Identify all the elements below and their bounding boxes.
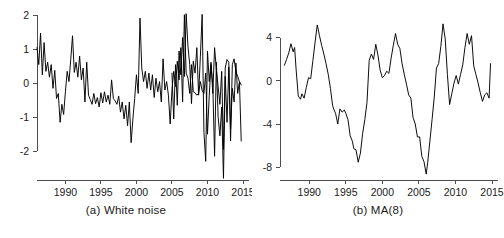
y-tick-label: 0 — [266, 75, 272, 87]
panel-ma8: -8-404199019952000200520102015 (b) MA(8) — [252, 0, 504, 238]
x-tick-label: 1990 — [298, 186, 322, 198]
x-tick-label: 2005 — [407, 186, 431, 198]
x-tick-label: 2005 — [160, 186, 184, 198]
x-tick-label: 2010 — [196, 186, 220, 198]
x-tick-label: 1995 — [334, 186, 358, 198]
y-tick-label: -4 — [263, 118, 272, 130]
series-line — [284, 24, 490, 174]
caption-panel-a: (a) White noise — [0, 204, 252, 216]
white-noise-plot: -2-1012199019952000200520102015 — [0, 0, 252, 238]
x-tick-label: 2000 — [371, 186, 395, 198]
y-tick-label: 4 — [266, 31, 272, 43]
x-tick-label: 2015 — [231, 186, 252, 198]
y-tick-label: 2 — [23, 9, 29, 21]
y-tick-label: 0 — [23, 77, 29, 89]
series-line — [37, 15, 241, 179]
y-tick-label: 1 — [23, 43, 29, 55]
y-tick-label: -2 — [20, 145, 29, 157]
y-tick-label: -8 — [263, 161, 272, 173]
ma8-plot: -8-404199019952000200520102015 — [252, 0, 504, 238]
x-tick-label: 2000 — [125, 186, 149, 198]
x-tick-label: 1995 — [89, 186, 113, 198]
figure-container: -2-1012199019952000200520102015 (a) Whit… — [0, 0, 504, 238]
x-tick-label: 1990 — [54, 186, 78, 198]
panel-white-noise: -2-1012199019952000200520102015 (a) Whit… — [0, 0, 252, 238]
caption-panel-b: (b) MA(8) — [252, 204, 504, 216]
y-tick-label: -1 — [20, 111, 29, 123]
x-tick-label: 2010 — [444, 186, 468, 198]
x-tick-label: 2015 — [480, 186, 504, 198]
